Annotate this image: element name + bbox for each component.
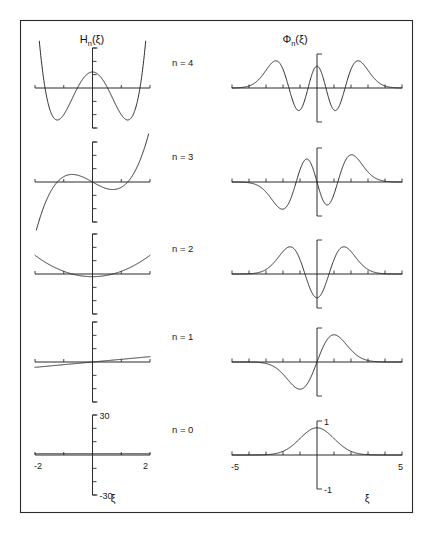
wavefunction-plot-n0 [232, 421, 402, 489]
hermite-plot-n4 [35, 41, 150, 128]
hermite-wavefunction-figure: Hn(ξ) Φn(ξ) n = 4n = 3n = 2n = 1n = 0 -2… [0, 0, 435, 539]
wavefunction-plot-n1 [232, 328, 402, 396]
wavefunction-plot-n3 [232, 148, 402, 216]
column-header-hermite: Hn(ξ) [80, 33, 104, 48]
row-label-n1: n = 1 [172, 331, 193, 342]
column-header-wavefunction: Φn(ξ) [282, 33, 307, 48]
wavefunction-plot-n2 [232, 240, 402, 308]
plot-row: n = 1 [35, 322, 402, 402]
xaxis-label-right: ξ [365, 492, 370, 504]
right-xmin-label: -5 [231, 462, 239, 472]
plot-row: n = 3 [35, 134, 402, 230]
right-ymin-label: -1 [324, 485, 332, 495]
hermite-plot-n2 [35, 234, 150, 314]
hermite-plot-n3 [35, 134, 150, 230]
plot-row: n = 4 [35, 41, 402, 128]
plot-row: n = 2 [35, 234, 402, 314]
right-xmax-label: 5 [398, 462, 403, 472]
hermite-plot-n1 [35, 322, 150, 402]
plot-row: n = 0 [35, 415, 402, 495]
row-label-n2: n = 2 [172, 243, 193, 254]
row-label-n0: n = 0 [172, 424, 193, 435]
row-label-n4: n = 4 [172, 57, 193, 68]
plot-rows: n = 4n = 3n = 2n = 1n = 0 [35, 41, 402, 495]
right-ymax-label: 1 [324, 417, 329, 427]
row-label-n3: n = 3 [172, 151, 193, 162]
left-xmax-label: 2 [143, 461, 148, 471]
figure-border [21, 21, 413, 513]
wavefunction-plot-n4 [232, 54, 402, 122]
figure-canvas: Hn(ξ) Φn(ξ) n = 4n = 3n = 2n = 1n = 0 -2… [0, 0, 435, 539]
hermite-plot-n0 [35, 415, 150, 495]
left-ymax-label: 30 [100, 411, 110, 421]
xaxis-label-left: ξ [111, 492, 116, 504]
left-xmin-label: -2 [34, 461, 42, 471]
